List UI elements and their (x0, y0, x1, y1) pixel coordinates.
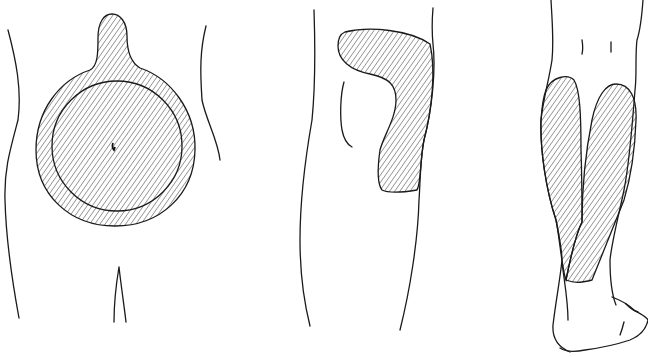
pubic-cleft (114, 267, 126, 322)
foot-contour (560, 297, 648, 351)
panel-abdomen (5, 14, 220, 322)
toe-detail (620, 304, 638, 335)
hatched-abdominal-region (36, 14, 195, 226)
panel-thigh (300, 8, 434, 330)
panel-calf (541, 0, 648, 352)
popliteal-mark-left (582, 40, 583, 54)
hatched-thigh-region (338, 29, 433, 192)
torso-left-contour (5, 30, 19, 318)
thigh-left-contour (300, 10, 315, 326)
knee-crease (341, 82, 352, 147)
illustration (0, 0, 648, 357)
torso-right-contour (201, 26, 220, 160)
